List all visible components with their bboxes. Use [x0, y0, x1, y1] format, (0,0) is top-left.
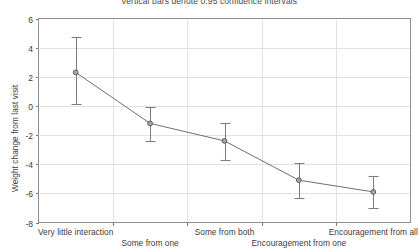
axis-tickmarks	[36, 20, 337, 226]
x-tick-label: Very little interaction	[38, 227, 113, 237]
y-tick-label: -2	[16, 131, 33, 141]
data-point-marker	[148, 121, 153, 126]
vertical-gridlines	[114, 20, 337, 222]
x-tick-label: Encouragement from one	[252, 238, 347, 248]
y-tick-label: 6	[16, 15, 33, 25]
data-point-marker	[371, 190, 376, 195]
x-tick-label: Encouragement from all	[329, 227, 418, 237]
data-point-markers	[73, 70, 375, 194]
x-tick-label: Some from one	[121, 238, 178, 248]
y-tick-label: 4	[16, 44, 33, 54]
chart-title: Vertical bars denote 0.95 confidence int…	[0, 0, 418, 6]
plot-area	[0, 0, 418, 251]
y-tick-label: 2	[16, 73, 33, 83]
x-tick-label: Some from both	[195, 227, 255, 237]
series-line	[76, 72, 374, 191]
y-tick-label: -6	[16, 189, 33, 199]
data-point-marker	[297, 178, 302, 183]
y-tick-label: -4	[16, 160, 33, 170]
plot-frame	[39, 19, 411, 223]
error-bars	[72, 38, 379, 209]
data-point-marker	[73, 70, 78, 75]
data-point-marker	[222, 139, 227, 144]
y-tick-label: 0	[16, 102, 33, 112]
chart-figure: Vertical bars denote 0.95 confidence int…	[0, 0, 418, 251]
y-tick-label: -8	[16, 219, 33, 229]
gridlines	[40, 49, 410, 194]
